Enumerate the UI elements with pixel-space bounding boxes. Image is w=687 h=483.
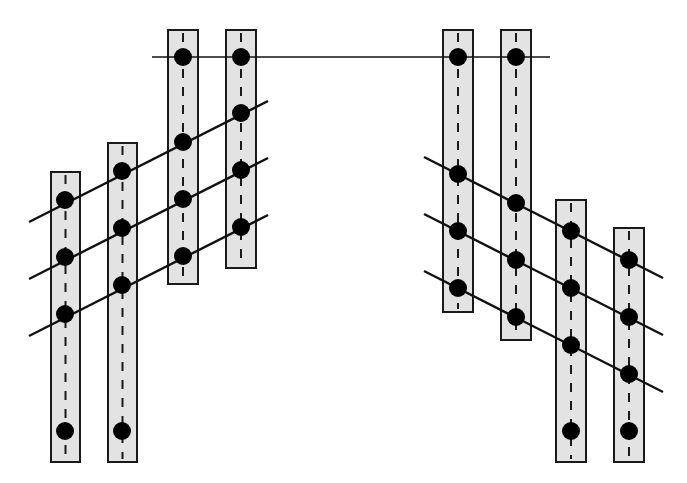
joint-node (232, 218, 250, 236)
joint-node (449, 222, 467, 240)
joint-node (232, 161, 250, 179)
hanger-bar (168, 30, 198, 284)
bar-body (168, 30, 198, 284)
joint-node (562, 422, 580, 440)
joint-node (562, 336, 580, 354)
joint-node (232, 104, 250, 122)
joint-node (620, 251, 638, 269)
joint-node (562, 222, 580, 240)
joint-node (449, 165, 467, 183)
joint-node (232, 48, 250, 66)
joint-node (113, 422, 131, 440)
node-diagram (0, 0, 687, 483)
joint-node (56, 305, 74, 323)
joint-node (507, 48, 525, 66)
joint-node (113, 219, 131, 237)
joint-node (174, 190, 192, 208)
joint-node (174, 48, 192, 66)
joint-node (56, 248, 74, 266)
hanger-bar (501, 30, 531, 340)
joint-node (113, 276, 131, 294)
joint-node (507, 251, 525, 269)
joint-node (620, 365, 638, 383)
joint-node (507, 194, 525, 212)
joint-node (449, 279, 467, 297)
joint-node (174, 247, 192, 265)
joint-node (620, 422, 638, 440)
joint-node (56, 191, 74, 209)
joint-node (174, 133, 192, 151)
figure-canvas (0, 0, 687, 483)
joint-node (562, 279, 580, 297)
joint-node (449, 48, 467, 66)
hanger-bar (108, 143, 137, 462)
joint-node (113, 162, 131, 180)
joint-node (56, 422, 74, 440)
joint-node (620, 308, 638, 326)
joint-node (507, 308, 525, 326)
